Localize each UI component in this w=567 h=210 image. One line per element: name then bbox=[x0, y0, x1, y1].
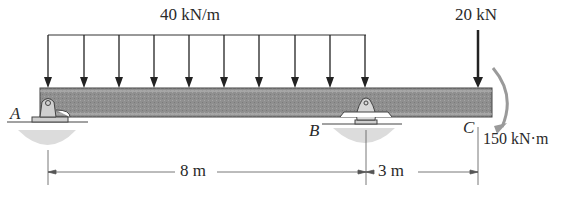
moment-arrow bbox=[493, 68, 507, 134]
beam-diagram bbox=[0, 0, 567, 210]
support-b-label: B bbox=[309, 121, 319, 141]
point-c-label: C bbox=[463, 118, 474, 138]
dimension-lines bbox=[48, 127, 478, 185]
distributed-load-label: 40 kN/m bbox=[160, 5, 220, 25]
dimension-ab-label: 8 m bbox=[180, 161, 206, 181]
distributed-load bbox=[44, 35, 369, 88]
beam bbox=[40, 88, 492, 117]
moment-label: 150 kN·m bbox=[483, 130, 548, 148]
point-load-arrow bbox=[473, 30, 483, 88]
dimension-bc-label: 3 m bbox=[378, 161, 404, 181]
support-a-label: A bbox=[10, 104, 20, 124]
point-load-label: 20 kN bbox=[455, 5, 497, 25]
